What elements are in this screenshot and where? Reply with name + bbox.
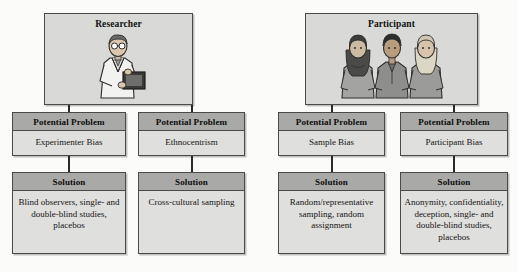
research-problems-diagram: Researcher [0,0,518,272]
solution-text-2: Cross-cultural sampling [139,191,244,253]
problem-header-3: Potential Problem [279,113,384,131]
problem-box-experimenter-bias: Potential Problem Experimenter Bias [12,112,126,156]
solution-box-2: Solution Cross-cultural sampling [138,172,245,254]
solution-box-3: Solution Random/representative sampling,… [278,172,385,254]
solution-header-2: Solution [139,173,244,191]
connector-problem-2-to-solution-2 [191,156,193,172]
problem-header-4: Potential Problem [401,113,507,131]
problem-text-4: Participant Bias [401,131,507,155]
problem-header-1: Potential Problem [13,113,125,131]
three-participants-icon [306,32,477,102]
solution-text-4: Anonymity, confidentiality, deception, s… [401,191,507,253]
solution-text-1: Blind observers, single- and double-blin… [13,191,125,253]
solution-header-1: Solution [13,173,125,191]
source-label-researcher: Researcher [45,19,192,29]
problem-box-sample-bias: Potential Problem Sample Bias [278,112,385,156]
problem-text-2: Ethnocentrism [139,131,244,155]
problem-header-2: Potential Problem [139,113,244,131]
source-box-participant: Participant [305,13,478,105]
problem-text-3: Sample Bias [279,131,384,155]
connector-problem-3-to-solution-3 [331,156,333,172]
researcher-with-clipboard-icon [45,32,192,102]
problem-text-1: Experimenter Bias [13,131,125,155]
source-box-researcher: Researcher [44,13,193,105]
connector-problem-4-to-solution-4 [453,156,455,172]
source-label-participant: Participant [306,19,477,29]
connector-problem-1-to-solution-1 [68,156,70,172]
problem-box-ethnocentrism: Potential Problem Ethnocentrism [138,112,245,156]
solution-box-1: Solution Blind observers, single- and do… [12,172,126,254]
solution-text-3: Random/representative sampling, random a… [279,191,384,253]
problem-box-participant-bias: Potential Problem Participant Bias [400,112,508,156]
solution-header-4: Solution [401,173,507,191]
solution-header-3: Solution [279,173,384,191]
solution-box-4: Solution Anonymity, confidentiality, dec… [400,172,508,254]
